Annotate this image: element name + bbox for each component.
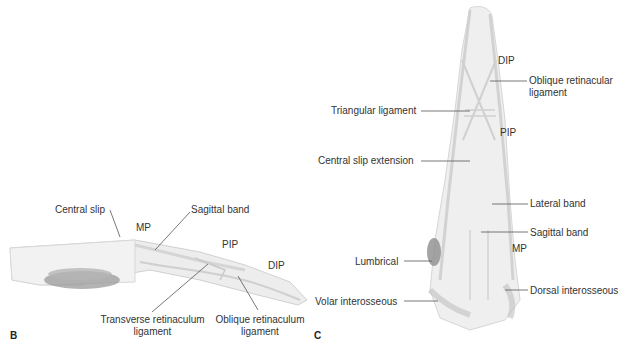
lateral-finger-illustration (10, 240, 307, 305)
label-lateral-band: Lateral band (530, 198, 586, 210)
label-dip: DIP (268, 260, 285, 272)
label-central-slip-extension: Central slip extension (318, 155, 414, 167)
label-mp-dorsal: MP (512, 243, 527, 255)
label-oblique-retinaculum-ligament: Oblique retinaculum ligament (210, 314, 310, 338)
label-sagittal-band-dorsal: Sagittal band (530, 227, 588, 239)
panel-letter-c: C (314, 330, 321, 341)
label-triangular-ligament: Triangular ligament (331, 105, 416, 117)
label-dip-dorsal: DIP (498, 55, 515, 67)
panel-letter-b: B (10, 330, 17, 341)
label-volar-interosseous: Volar interosseous (315, 296, 397, 308)
label-dorsal-interosseous: Dorsal interosseous (530, 285, 618, 297)
label-central-slip: Central slip (55, 204, 105, 216)
label-oblique-retinacular-ligament: Oblique retinacular ligament (529, 75, 613, 99)
label-transverse-retinaculum-ligament: Transverse retinaculum ligament (90, 314, 215, 338)
label-sagittal-band: Sagittal band (191, 204, 249, 216)
label-pip-dorsal: PIP (500, 127, 516, 139)
label-pip: PIP (222, 239, 238, 251)
label-mp: MP (136, 222, 151, 234)
label-lumbrical: Lumbrical (355, 256, 398, 268)
